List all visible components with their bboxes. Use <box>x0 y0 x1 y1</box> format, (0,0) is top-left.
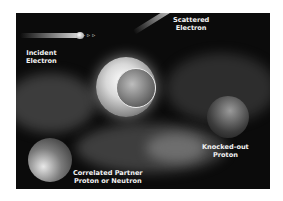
label-line: Scattered <box>173 16 209 24</box>
partner-nucleon <box>28 138 72 182</box>
label-correlated-partner: Correlated Partner Proton or Neutron <box>73 169 143 185</box>
label-line: Proton <box>202 151 249 159</box>
background-glow <box>16 73 96 133</box>
photon-arrows: ▹ ▹ ▹ <box>82 31 95 39</box>
incident-electron-beam <box>20 33 80 38</box>
label-line: Proton or Neutron <box>73 177 143 185</box>
nucleon-pair <box>116 68 156 108</box>
label-knocked-out-proton: Knocked-out Proton <box>202 143 249 159</box>
label-scattered-electron: Scattered Electron <box>173 16 209 32</box>
background-glow <box>146 133 206 163</box>
knocked-out-proton <box>207 96 249 138</box>
label-line: Knocked-out <box>202 143 249 151</box>
illustration-panel: ▹ ▹ ▹ Incident Electron Scattered Electr… <box>16 13 270 189</box>
scattered-electron-beam <box>133 13 175 35</box>
label-line: Correlated Partner <box>73 169 143 177</box>
label-line: Electron <box>26 57 57 65</box>
label-incident-electron: Incident Electron <box>26 49 57 65</box>
label-line: Electron <box>173 24 209 32</box>
label-line: Incident <box>26 49 57 57</box>
